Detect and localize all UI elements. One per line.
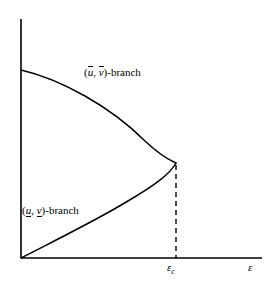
critical-epsilon-tick-label: εc [167,262,175,276]
critical-epsilon-subscript: c [171,267,175,276]
upper-branch-curve [21,70,176,163]
bifurcation-diagram-figure: (u, v)-branch (u, v)-branch εc ε [0,0,271,285]
lower-branch-suffix: -branch [45,204,79,216]
x-axis-label: ε [248,262,252,273]
lower-branch-label: (u, v)-branch [22,205,79,217]
upper-branch-label: (u, v)-branch [84,66,141,78]
upper-branch-suffix: -branch [107,66,141,78]
plot-canvas [0,0,271,285]
